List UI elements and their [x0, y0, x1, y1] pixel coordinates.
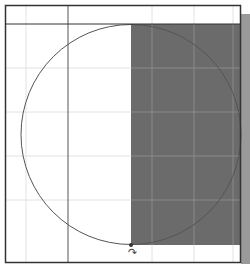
selected-rectangle-shape[interactable] [131, 24, 240, 245]
rotate-cursor-icon: ↷ [128, 247, 137, 258]
drawing-surface[interactable] [0, 0, 250, 264]
drawing-canvas[interactable]: ↷ [0, 0, 250, 264]
